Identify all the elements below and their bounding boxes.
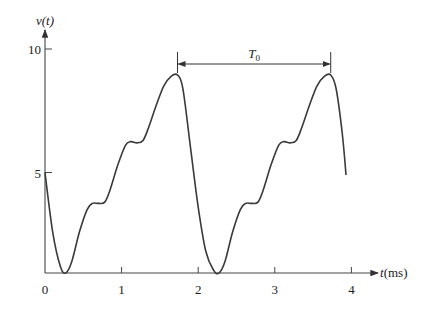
- x-label-unit: (ms): [384, 265, 408, 280]
- x-tick-label: 2: [195, 282, 202, 297]
- y-ticks: 510: [28, 42, 52, 181]
- x-ticks: 01234: [42, 267, 355, 297]
- axes: v(t) t(ms): [36, 13, 407, 280]
- y-tick-label: 10: [28, 42, 41, 57]
- waveform-chart: v(t) t(ms) 01234 510 T0: [0, 0, 435, 318]
- x-tick-label: 4: [348, 282, 355, 297]
- series-line-v: [45, 74, 346, 274]
- x-tick-label: 3: [272, 282, 279, 297]
- series-group: [45, 74, 346, 274]
- period-annotation: T0: [178, 46, 331, 73]
- y-axis-label: v(t): [36, 13, 54, 28]
- x-tick-label: 0: [42, 282, 49, 297]
- y-tick-label: 5: [35, 166, 42, 181]
- period-label: T0: [248, 46, 260, 63]
- x-axis-label: t(ms): [380, 265, 407, 280]
- x-tick-label: 1: [118, 282, 125, 297]
